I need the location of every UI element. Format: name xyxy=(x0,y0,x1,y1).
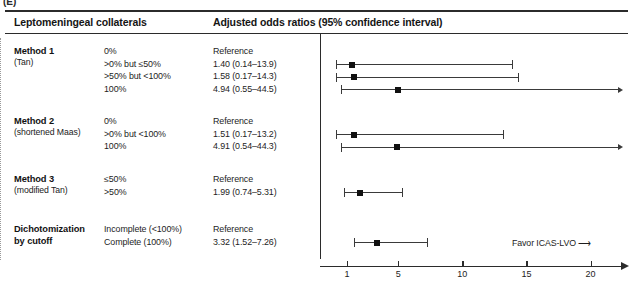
ci-whisker xyxy=(341,147,618,148)
odds-ratio-value: 1.99 (0.74–5.31) xyxy=(213,187,277,197)
x-tick-label: 20 xyxy=(586,269,596,279)
x-tick xyxy=(526,261,527,267)
x-tick-label: 1 xyxy=(344,269,349,279)
group-subtitle: (modified Tan) xyxy=(14,185,68,195)
category-label: ≤50% xyxy=(104,174,126,184)
x-axis-line xyxy=(320,266,622,267)
point-estimate-marker xyxy=(395,87,401,93)
panel-label: (E) xyxy=(3,0,16,7)
point-estimate-marker xyxy=(357,190,363,196)
forest-plot-figure: (E) Leptomeningeal collaterals Adjusted … xyxy=(0,0,641,283)
ci-whisker xyxy=(336,134,503,135)
ci-lower-cap xyxy=(354,238,355,247)
ci-upper-arrowhead xyxy=(618,144,623,150)
table-header-rule xyxy=(5,33,628,34)
category-label: 100% xyxy=(104,141,126,151)
ci-upper-cap xyxy=(427,238,428,247)
ci-lower-cap xyxy=(336,130,337,139)
odds-ratio-value: 1.58 (0.17–14.3) xyxy=(213,71,277,81)
plot-left-border xyxy=(320,34,321,259)
group-name-line2: by cutoff xyxy=(14,236,52,246)
ci-whisker xyxy=(336,64,512,65)
reference-line xyxy=(0,38,1,260)
point-estimate-marker xyxy=(394,144,400,150)
x-tick xyxy=(347,261,348,267)
x-tick xyxy=(462,261,463,267)
ci-lower-cap xyxy=(336,73,337,82)
reference-value: Reference xyxy=(213,174,253,184)
x-tick xyxy=(398,261,399,267)
group-name: Method 3 xyxy=(14,174,54,184)
ci-whisker xyxy=(354,242,428,243)
category-label: Complete (100%) xyxy=(104,237,172,247)
ci-upper-cap xyxy=(518,73,519,82)
reference-value: Reference xyxy=(213,46,253,56)
x-axis-arrowhead xyxy=(621,262,629,270)
ci-upper-cap xyxy=(503,130,504,139)
ci-upper-cap xyxy=(402,188,403,197)
group-name: Method 2 xyxy=(14,116,54,126)
category-label: >50% xyxy=(104,187,127,197)
column-header-odds-ratios: Adjusted odds ratios (95% confidence int… xyxy=(213,16,442,28)
category-label: >50% but <100% xyxy=(104,71,171,81)
reference-value: Reference xyxy=(213,116,253,126)
column-header-collaterals: Leptomeningeal collaterals xyxy=(14,16,147,28)
x-tick xyxy=(591,261,592,267)
x-tick-label: 10 xyxy=(457,269,467,279)
point-estimate-marker xyxy=(351,132,357,138)
odds-ratio-value: 3.32 (1.52–7.26) xyxy=(213,237,277,247)
x-tick-label: 15 xyxy=(521,269,531,279)
odds-ratio-value: 4.94 (0.55–44.5) xyxy=(213,84,277,94)
point-estimate-marker xyxy=(349,62,355,68)
group-subtitle: (Tan) xyxy=(14,57,33,67)
ci-lower-cap xyxy=(344,188,345,197)
group-subtitle: (shortened Maas) xyxy=(14,127,80,137)
group-name: Method 1 xyxy=(14,46,54,56)
ci-whisker xyxy=(344,192,403,193)
favor-icas-lvo-annotation: Favor ICAS-LVO ⟶ xyxy=(512,238,591,248)
point-estimate-marker xyxy=(374,240,380,246)
reference-value: Reference xyxy=(213,224,253,234)
category-label: >0% but ≤50% xyxy=(104,59,161,69)
x-tick-label: 5 xyxy=(396,269,401,279)
point-estimate-marker xyxy=(351,74,357,80)
ci-whisker xyxy=(341,89,618,90)
ci-lower-cap xyxy=(336,60,337,69)
odds-ratio-value: 1.51 (0.17–13.2) xyxy=(213,129,277,139)
category-label: Incomplete (<100%) xyxy=(104,224,182,234)
group-name: Dichotomization xyxy=(14,224,85,234)
ci-upper-cap xyxy=(512,60,513,69)
ci-lower-cap xyxy=(341,85,342,94)
category-label: 0% xyxy=(104,116,117,126)
odds-ratio-value: 1.40 (0.14–13.9) xyxy=(213,59,277,69)
table-top-rule xyxy=(5,10,628,12)
category-label: 0% xyxy=(104,46,117,56)
category-label: 100% xyxy=(104,84,126,94)
odds-ratio-value: 4.91 (0.54–44.3) xyxy=(213,141,277,151)
ci-upper-arrowhead xyxy=(618,87,623,93)
category-label: >0% but <100% xyxy=(104,129,166,139)
ci-whisker xyxy=(336,77,517,78)
ci-lower-cap xyxy=(341,143,342,152)
